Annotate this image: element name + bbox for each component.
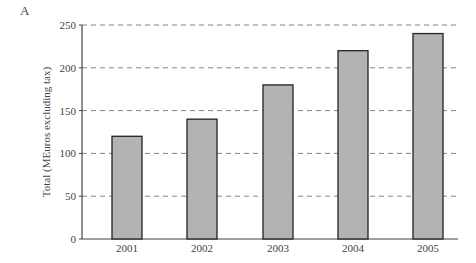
x-tick-label: 2005 [417,242,440,254]
y-tick-label: 0 [71,233,77,245]
y-tick-label: 50 [65,190,77,202]
bar-2004 [338,51,368,239]
y-tick-label: 150 [60,105,77,117]
bar-2001 [112,136,142,239]
y-tick-label: 250 [60,19,77,31]
bar-chart: 050100150200250Total (MEuros excluding t… [0,0,476,263]
y-tick-label: 100 [60,147,77,159]
y-axis-label: Total (MEuros excluding tax) [40,67,53,198]
bar-2003 [263,85,293,239]
bars [112,34,443,239]
y-axis: 050100150200250 [60,19,83,245]
x-tick-label: 2002 [191,242,213,254]
x-tick-label: 2001 [116,242,138,254]
x-tick-label: 2003 [267,242,290,254]
x-tick-label: 2004 [342,242,365,254]
y-tick-label: 200 [60,62,77,74]
x-axis: 20012002200320042005 [116,242,440,254]
bar-2005 [413,34,443,239]
bar-2002 [187,119,217,239]
